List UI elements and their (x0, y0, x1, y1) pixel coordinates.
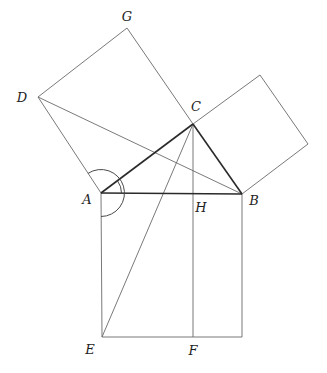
segment-d-g (38, 28, 127, 97)
segment-a-b (101, 193, 242, 194)
vertex-label-h: H (195, 201, 206, 214)
angle-arc-cab (118, 181, 122, 193)
segment-a-c (101, 124, 193, 193)
segment-g-c (127, 28, 193, 124)
vertex-label-d: D (17, 91, 27, 104)
vertex-label-f: F (188, 344, 197, 357)
segment-c-k (193, 75, 260, 124)
pythagorean-diagram (0, 0, 327, 373)
vertex-label-b: B (249, 194, 259, 207)
segment-l-b (242, 144, 308, 194)
segment-c-e (102, 124, 193, 337)
vertex-label-c: C (191, 100, 201, 113)
segment-a-e (101, 193, 102, 337)
vertex-label-a: A (82, 193, 91, 206)
segment-d-b (38, 97, 242, 194)
segment-k-l (260, 75, 308, 144)
vertex-label-e: E (85, 343, 95, 356)
segment-a-d (38, 97, 101, 193)
construction-lines (38, 28, 308, 337)
segment-c-b (193, 124, 242, 194)
vertex-label-g: G (122, 10, 132, 23)
